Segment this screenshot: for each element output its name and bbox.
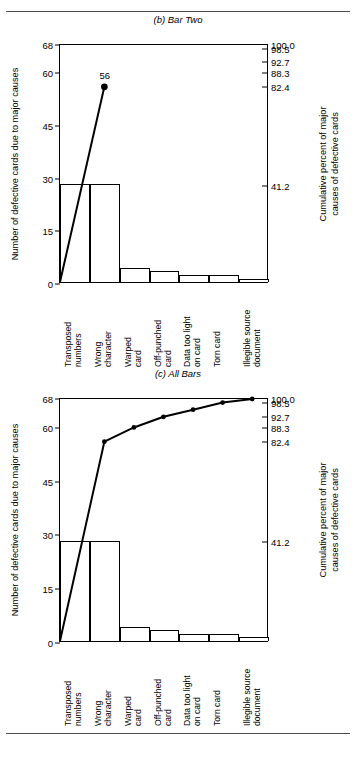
- left-axis-tick-label: 30: [42, 173, 53, 184]
- right-axis-title-line2: causes of defective cards: [329, 106, 341, 221]
- cumulative-polyline: [60, 399, 252, 641]
- cumulative-line: [60, 399, 267, 641]
- right-axis-tick: [262, 72, 267, 73]
- right-axis-title-line1: Cumulative percent of major: [317, 106, 329, 221]
- bottom-divider-rule: [6, 733, 350, 734]
- left-axis-tick-label: 30: [42, 530, 53, 541]
- category-label: Illegible sourcedocument: [243, 644, 300, 663]
- left-axis-tick-label: 15: [42, 226, 53, 237]
- cumulative-point-marker: [250, 397, 255, 402]
- left-axis-tick-label: 45: [42, 476, 53, 487]
- right-axis-tick: [262, 185, 267, 186]
- chart-bar-two: (b) Bar Two Number of defective cards du…: [0, 14, 356, 354]
- cumulative-polyline: [60, 87, 104, 282]
- left-axis-tick-label: 68: [42, 394, 53, 405]
- cumulative-point-marker: [161, 414, 166, 419]
- category-label: Warpedcard: [124, 285, 154, 304]
- clipped-header-text: [72, 0, 212, 4]
- left-axis-tick: [55, 589, 60, 590]
- left-axis-tick-label: 15: [42, 584, 53, 595]
- right-axis-title-line2: causes of defective cards: [329, 463, 341, 578]
- left-axis-tick: [55, 231, 60, 232]
- category-axis-labels: TransposednumbersWrongcharacterWarpedcar…: [59, 285, 268, 369]
- right-axis-tick: [262, 427, 267, 428]
- right-axis-tick: [262, 441, 267, 442]
- chart-title: (c) All Bars: [0, 368, 356, 379]
- left-axis-tick: [55, 481, 60, 482]
- figure-page: (b) Bar Two Number of defective cards du…: [0, 0, 356, 757]
- left-axis-title: Number of defective cards due to major c…: [8, 398, 22, 642]
- left-axis-tick: [55, 399, 60, 400]
- right-axis-tick: [262, 62, 267, 63]
- cumulative-line: [60, 45, 267, 282]
- right-axis-tick-label: 100.0: [271, 394, 295, 405]
- plot-area: 0153045606841.282.488.392.798.5100.0: [59, 398, 268, 642]
- left-axis-tick-label: 0: [48, 638, 53, 649]
- right-axis-tick: [262, 542, 267, 543]
- right-axis-title: Cumulative percent of major causes of de…: [313, 398, 345, 642]
- left-axis-tick-label: 60: [42, 422, 53, 433]
- right-axis-tick-label: 41.2: [271, 537, 290, 548]
- right-axis-tick: [262, 48, 267, 49]
- right-axis-title-line1: Cumulative percent of major: [317, 463, 329, 578]
- right-axis-tick-label: 88.3: [271, 67, 290, 78]
- cumulative-point-marker: [101, 83, 108, 90]
- category-label: Warpedcard: [124, 644, 154, 663]
- cumulative-point-marker: [191, 407, 196, 412]
- left-axis-tick-label: 68: [42, 40, 53, 51]
- right-axis-tick: [262, 87, 267, 88]
- right-axis-tick: [262, 402, 267, 403]
- left-axis-tick-label: 0: [48, 279, 53, 290]
- data-point-label: 56: [99, 70, 110, 81]
- right-axis-tick-label: 82.4: [271, 436, 290, 447]
- chart-all-bars: (c) All Bars Number of defective cards d…: [0, 368, 356, 728]
- right-axis-title: Cumulative percent of major causes of de…: [313, 44, 345, 283]
- right-axis-tick-label: 88.3: [271, 422, 290, 433]
- right-axis-tick-label: 92.7: [271, 411, 290, 422]
- right-axis-tick-label: 82.4: [271, 82, 290, 93]
- category-axis-labels: TransposednumbersWrongcharacterWarpedcar…: [59, 644, 268, 728]
- left-axis-tick: [55, 45, 60, 46]
- plot-area: 0153045606841.282.488.392.798.5100.056: [59, 44, 268, 283]
- cumulative-point-marker: [102, 439, 107, 444]
- right-axis-tick: [262, 416, 267, 417]
- right-axis-tick-label: 41.2: [271, 180, 290, 191]
- left-axis-title: Number of defective cards due to major c…: [8, 44, 22, 283]
- left-axis-tick-label: 60: [42, 68, 53, 79]
- category-label: Illegible sourcedocument: [243, 285, 300, 304]
- left-axis-tick: [55, 427, 60, 428]
- left-axis-tick: [55, 73, 60, 74]
- left-axis-tick: [55, 125, 60, 126]
- left-axis-tick-label: 45: [42, 120, 53, 131]
- right-axis-tick-label: 92.7: [271, 57, 290, 68]
- cumulative-point-marker: [220, 400, 225, 405]
- top-divider-rule: [6, 11, 350, 12]
- right-axis-tick-label: 100.0: [271, 40, 295, 51]
- chart-title: (b) Bar Two: [0, 14, 356, 25]
- cumulative-point-marker: [132, 425, 137, 430]
- left-axis-tick: [55, 535, 60, 536]
- left-axis-tick: [55, 178, 60, 179]
